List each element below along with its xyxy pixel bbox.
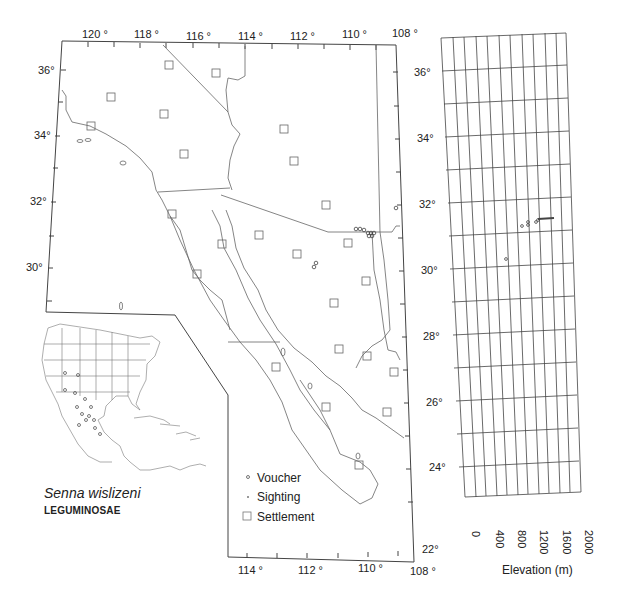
- elevation-grid: [441, 33, 581, 497]
- bottom-ticks: [247, 551, 398, 558]
- svg-text:108 °: 108 °: [392, 27, 418, 39]
- elevation-axis-title: Elevation (m): [502, 563, 573, 577]
- svg-text:36°: 36°: [38, 64, 55, 76]
- svg-text:1600: 1600: [561, 530, 573, 554]
- svg-text:112 °: 112 °: [290, 30, 315, 42]
- legend: Voucher Sighting Settlement: [243, 471, 315, 524]
- svg-text:118 °: 118 °: [134, 28, 159, 40]
- top-longitude-labels: 120 ° 118 ° 116 ° 114 ° 112 ° 110 ° 108 …: [82, 27, 418, 42]
- species-name: Senna wislizeni: [44, 485, 141, 501]
- svg-text:30°: 30°: [26, 261, 43, 273]
- svg-text:22°: 22°: [422, 543, 439, 555]
- voucher-markers: [312, 206, 398, 269]
- svg-text:34°: 34°: [417, 132, 434, 144]
- svg-text:30°: 30°: [421, 264, 438, 276]
- voucher-legend-icon: [247, 476, 250, 479]
- svg-text:24°: 24°: [429, 461, 446, 473]
- svg-text:34°: 34°: [34, 129, 51, 141]
- svg-text:Settlement: Settlement: [257, 510, 315, 524]
- islands: [77, 139, 360, 460]
- svg-text:28°: 28°: [423, 330, 440, 342]
- svg-text:32°: 32°: [30, 195, 47, 207]
- svg-text:108 °: 108 °: [410, 565, 436, 577]
- family-name: LEGUMINOSAE: [44, 505, 121, 516]
- svg-text:Voucher: Voucher: [257, 471, 301, 485]
- inset-map: [42, 324, 206, 470]
- svg-text:0: 0: [470, 531, 482, 537]
- svg-text:116 °: 116 °: [186, 30, 211, 42]
- svg-text:120 °: 120 °: [82, 28, 108, 40]
- svg-text:32°: 32°: [419, 198, 436, 210]
- svg-text:36°: 36°: [414, 66, 431, 78]
- bottom-longitude-labels: 114 ° 112 ° 110 ° 108 °: [238, 562, 436, 577]
- svg-text:26°: 26°: [426, 396, 443, 408]
- svg-text:112 °: 112 °: [298, 564, 323, 576]
- svg-text:110 °: 110 °: [358, 562, 383, 574]
- svg-text:800: 800: [516, 530, 528, 548]
- svg-text:114 °: 114 °: [238, 564, 263, 576]
- svg-text:2000: 2000: [583, 530, 595, 554]
- svg-text:1200: 1200: [538, 530, 550, 554]
- svg-text:Sighting: Sighting: [257, 490, 300, 504]
- settlement-legend-icon: [243, 512, 251, 520]
- left-ticks: [47, 70, 66, 301]
- svg-text:114 °: 114 °: [238, 30, 263, 42]
- right-latitude-labels: 36° 34° 32° 30° 28° 26° 24° 22°: [414, 66, 446, 555]
- elevation-x-labels: 0 400 800 1200 1600 2000: [470, 530, 595, 554]
- boundaries: [62, 45, 404, 504]
- svg-text:400: 400: [494, 530, 506, 548]
- svg-text:110 °: 110 °: [342, 28, 367, 40]
- sighting-legend-icon: [247, 496, 249, 498]
